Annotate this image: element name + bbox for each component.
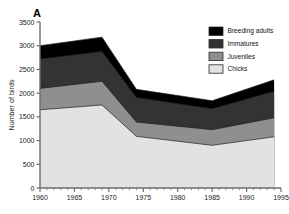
legend-item: Immatures: [209, 40, 259, 48]
legend-label: Breeding adults: [228, 27, 275, 35]
x-tick-label: 1960: [32, 194, 48, 201]
figure-panel-a: 0500100015002000250030003500196019651970…: [0, 0, 289, 214]
y-tick-label: 500: [23, 161, 35, 168]
legend-swatch: [209, 65, 223, 73]
y-tick-label: 1500: [19, 113, 35, 120]
x-tick-label: 1995: [273, 194, 289, 201]
legend-item: Juveniles: [209, 52, 256, 60]
y-axis-title: Number of birds: [7, 79, 16, 131]
plot-area: [40, 37, 274, 188]
y-tick-label: 1000: [19, 137, 35, 144]
stacked-area-chart: 0500100015002000250030003500196019651970…: [0, 0, 289, 214]
x-tick-label: 1970: [101, 194, 117, 201]
x-tick-label: 1975: [135, 194, 151, 201]
x-tick-label: 1985: [204, 194, 220, 201]
y-tick-label: 2000: [19, 90, 35, 97]
legend-swatch: [209, 40, 223, 48]
legend-label: Immatures: [228, 40, 260, 47]
legend-swatch: [209, 27, 223, 35]
chart-legend: Breeding adultsImmaturesJuvenilesChicks: [209, 27, 274, 73]
legend-swatch: [209, 52, 223, 60]
legend-item: Breeding adults: [209, 27, 274, 35]
y-tick-label: 0: [31, 185, 35, 192]
y-tick-label: 2500: [19, 66, 35, 73]
x-tick-label: 1965: [67, 194, 83, 201]
y-tick-label: 3500: [19, 19, 35, 26]
legend-label: Chicks: [228, 65, 248, 72]
x-tick-label: 1990: [239, 194, 255, 201]
y-tick-label: 3000: [19, 42, 35, 49]
legend-item: Chicks: [209, 65, 248, 73]
x-tick-label: 1980: [170, 194, 186, 201]
legend-label: Juveniles: [228, 53, 256, 60]
panel-label: A: [33, 7, 41, 19]
